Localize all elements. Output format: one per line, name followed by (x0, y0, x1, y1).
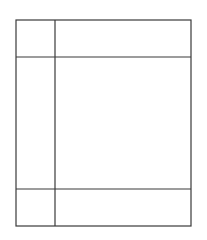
outer-frame (16, 20, 191, 226)
grid-diagram (0, 0, 207, 240)
